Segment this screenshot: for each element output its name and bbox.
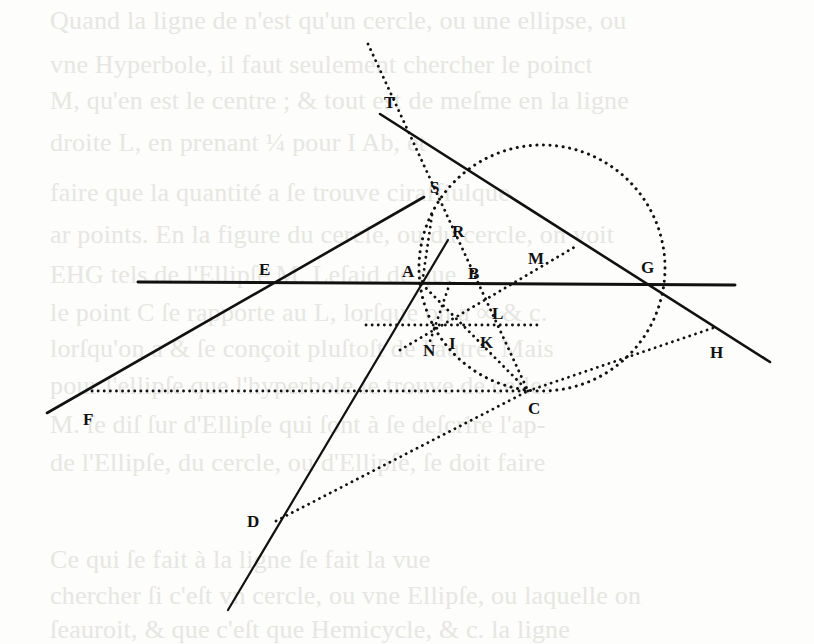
- label-G: G: [641, 258, 654, 277]
- label-I: I: [449, 334, 456, 353]
- label-N: N: [423, 341, 436, 360]
- label-C: C: [528, 399, 540, 418]
- dotted-line-D-C: [276, 391, 528, 521]
- label-M: M: [528, 249, 544, 268]
- label-A: A: [402, 262, 415, 281]
- dotted-line-C-H: [528, 328, 713, 391]
- label-D: D: [247, 512, 259, 531]
- line-F-E-S: [47, 197, 424, 413]
- label-L: L: [492, 304, 503, 323]
- label-T: T: [384, 93, 396, 112]
- label-H: H: [710, 343, 723, 362]
- dotted-line-A-I-C: [422, 284, 528, 391]
- label-E: E: [259, 260, 270, 279]
- label-K: K: [480, 333, 494, 352]
- dotted-circle: [419, 145, 665, 391]
- label-B: B: [468, 264, 479, 283]
- label-R: R: [452, 222, 465, 241]
- point-labels: T S R E A B M G L N I K H F C D: [83, 93, 723, 531]
- label-F: F: [83, 410, 93, 429]
- line-D-A-R: [228, 240, 448, 610]
- label-S: S: [430, 178, 439, 197]
- dotted-line-B-N: [429, 283, 450, 344]
